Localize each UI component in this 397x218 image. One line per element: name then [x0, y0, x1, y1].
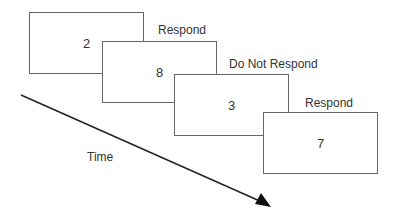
- trial-digit: 7: [264, 136, 377, 151]
- trial-box-4: 7: [263, 112, 378, 174]
- time-label: Time: [87, 150, 113, 164]
- response-label: Respond: [305, 96, 353, 110]
- response-label: Respond: [158, 23, 206, 37]
- response-label: Do Not Respond: [229, 57, 318, 71]
- trial-digit: 3: [175, 98, 288, 113]
